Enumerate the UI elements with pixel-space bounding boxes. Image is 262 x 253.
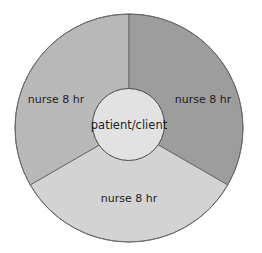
- segment-label-upper-left: nurse 8 hr: [28, 93, 85, 106]
- segment-label-bottom: nurse 8 hr: [101, 192, 158, 205]
- center-label: patient/client: [91, 118, 168, 132]
- segment-label-upper-right: nurse 8 hr: [175, 93, 232, 106]
- care-ring-diagram: nurse 8 hr nurse 8 hr nurse 8 hr patient…: [0, 0, 262, 253]
